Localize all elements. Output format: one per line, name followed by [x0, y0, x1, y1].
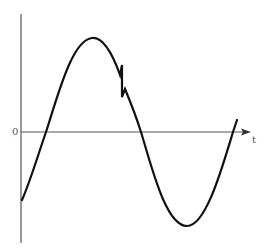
- y-origin-label: 0: [12, 127, 18, 137]
- waveform-diagram: [0, 0, 267, 248]
- x-axis-label: t: [252, 135, 256, 145]
